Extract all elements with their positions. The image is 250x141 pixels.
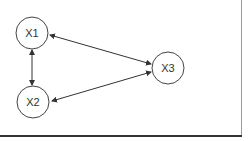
node-x2: X2 [17, 86, 49, 118]
edge-x2-x3 [52, 72, 151, 101]
edge-x1-x3 [50, 35, 151, 64]
node-x3-label: X3 [161, 62, 174, 74]
node-x1: X1 [16, 17, 48, 49]
node-x1-label: X1 [25, 27, 38, 39]
node-x2-label: X2 [26, 96, 39, 108]
node-x3: X3 [152, 52, 184, 84]
diagram-canvas: X1 X2 X3 [0, 0, 250, 141]
